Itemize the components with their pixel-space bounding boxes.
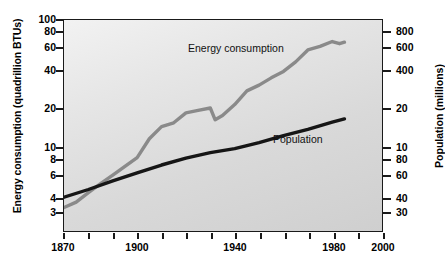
y-axis-left-tick-mark <box>56 198 64 200</box>
y-axis-right-tick-label: 20 <box>396 103 440 113</box>
y-axis-right-tick-label: 600 <box>396 42 440 52</box>
x-axis-tick-mark <box>88 233 90 239</box>
x-axis-tick-mark <box>113 233 115 239</box>
y-axis-left-tick-label: 60 <box>10 42 56 52</box>
x-axis-tick-mark <box>186 233 188 239</box>
x-axis-tick-mark <box>260 233 262 239</box>
population-label: Population <box>273 133 323 145</box>
x-axis-tick-mark <box>285 233 287 239</box>
x-axis-tick-mark <box>334 233 336 239</box>
x-axis-tick-mark <box>162 233 164 239</box>
y-axis-left-tick-label: 4 <box>10 193 56 203</box>
y-axis-left-tick-label: 100 <box>10 14 56 24</box>
y-axis-left-tick-label: 80 <box>10 26 56 36</box>
y-axis-right-tick-mark <box>383 31 391 33</box>
x-axis-tick-mark <box>235 233 237 239</box>
x-axis-tick-mark <box>137 233 139 239</box>
y-axis-right-tick-label: 800 <box>396 26 440 36</box>
x-axis-tick-mark <box>63 233 65 239</box>
x-axis-tick-mark <box>211 233 213 239</box>
y-axis-left-tick-mark <box>56 159 64 161</box>
x-axis-tick-label: 1870 <box>33 241 93 253</box>
y-axis-left-tick-label: 20 <box>10 103 56 113</box>
y-axis-left-tick-mark <box>56 175 64 177</box>
energy-consumption-label: Energy consumption <box>188 42 284 54</box>
y-axis-right-tick-label: 400 <box>396 65 440 75</box>
y-axis-right-tick-label: 10 <box>396 142 440 152</box>
y-axis-right-tick-mark <box>383 198 391 200</box>
y-axis-left-tick-mark <box>56 19 64 21</box>
y-axis-left-tick-mark <box>56 212 64 214</box>
y-axis-left-tick-label: 6 <box>10 170 56 180</box>
y-axis-right-tick-label: 60 <box>396 170 440 180</box>
y-axis-left-tick-label: 40 <box>10 65 56 75</box>
y-axis-right-tick-mark <box>383 108 391 110</box>
population-line <box>64 119 344 197</box>
plot-area: Energy consumption Population <box>63 19 383 232</box>
x-axis-tick-label: 1940 <box>205 241 265 253</box>
y-axis-left-tick-mark <box>56 47 64 49</box>
y-axis-right-tick-label: 40 <box>396 193 440 203</box>
y-axis-left-tick-mark <box>56 70 64 72</box>
y-axis-left-tick-label: 3 <box>10 207 56 217</box>
y-axis-left-tick-mark <box>56 31 64 33</box>
y-axis-right-tick-mark <box>383 70 391 72</box>
y-axis-right-tick-mark <box>383 47 391 49</box>
y-axis-right-tick-label: 30 <box>396 207 440 217</box>
y-axis-right-tick-label: 80 <box>396 154 440 164</box>
x-axis-tick-mark <box>383 233 385 239</box>
y-axis-right-tick-mark <box>383 175 391 177</box>
x-axis-tick-mark <box>358 233 360 239</box>
x-axis-tick-label: 2000 <box>353 241 413 253</box>
x-axis-tick-label: 1900 <box>107 241 167 253</box>
y-axis-right-tick-mark <box>383 147 391 149</box>
x-axis-tick-mark <box>309 233 311 239</box>
y-axis-left-tick-label: 10 <box>10 142 56 152</box>
y-axis-left-tick-mark <box>56 147 64 149</box>
y-axis-left-tick-label: 8 <box>10 154 56 164</box>
y-axis-right-tick-mark <box>383 212 391 214</box>
y-axis-right-tick-mark <box>383 159 391 161</box>
y-axis-left-tick-mark <box>56 108 64 110</box>
